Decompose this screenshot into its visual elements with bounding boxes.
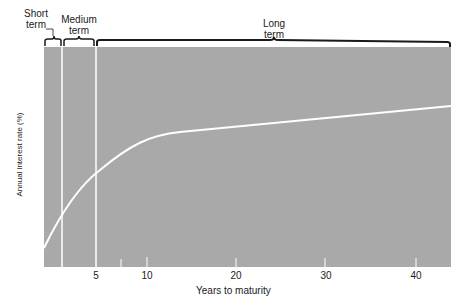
short-term-leader <box>46 29 53 36</box>
x-tick-label-40: 40 <box>406 270 426 281</box>
short-term-line1: Short <box>20 8 52 19</box>
medium-term-label: Medium term <box>56 14 102 36</box>
plot-area <box>44 47 451 267</box>
x-tick-label-5: 5 <box>86 270 106 281</box>
x-tick-label-20: 20 <box>226 270 246 281</box>
chart-canvas <box>0 0 476 307</box>
short-term-label: Short term <box>20 8 52 30</box>
medium-term-line2: term <box>56 25 102 36</box>
long-term-line2: term <box>254 29 294 40</box>
long-term-label: Long term <box>254 18 294 40</box>
y-axis-label: Annual interest rate (%) <box>15 100 24 210</box>
short-term-brace <box>45 36 61 46</box>
long-term-line1: Long <box>254 18 294 29</box>
x-axis-label: Years to maturity <box>196 285 271 296</box>
x-tick-label-30: 30 <box>316 270 336 281</box>
medium-term-brace <box>64 36 94 46</box>
medium-term-line1: Medium <box>56 14 102 25</box>
short-term-line2: term <box>20 19 52 30</box>
x-tick-label-10: 10 <box>137 270 157 281</box>
